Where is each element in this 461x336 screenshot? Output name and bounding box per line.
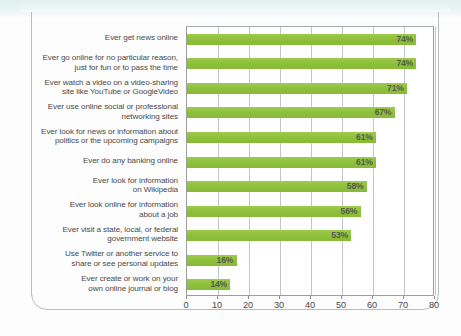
category-label-line2: politics or the upcoming campaigns — [6, 136, 178, 146]
x-tick-label-0: 0 — [183, 300, 188, 310]
bar-value-label: 16% — [217, 255, 234, 266]
category-label-line1: Use Twitter or another service to — [65, 249, 178, 258]
bar — [187, 83, 407, 94]
bar-value-label: 67% — [375, 107, 392, 118]
bar-value-label: 74% — [396, 34, 413, 45]
bar — [187, 230, 351, 241]
horizontal-bar-chart: Ever get news onlineEver go online for n… — [0, 0, 461, 336]
category-label: Ever look for informationon Wikipedia — [6, 176, 178, 195]
category-label-line1: Ever watch a video on a video-sharing — [44, 78, 178, 87]
x-tick-mark-20 — [248, 296, 249, 299]
bar-value-label: 53% — [331, 230, 348, 241]
x-tick-label-60: 60 — [367, 300, 377, 310]
x-tick-mark-60 — [372, 296, 373, 299]
category-label: Ever create or work on yourown online jo… — [6, 274, 178, 293]
x-tick-label-10: 10 — [212, 300, 222, 310]
x-tick-mark-70 — [403, 296, 404, 299]
x-tick-label-50: 50 — [336, 300, 346, 310]
category-labels-axis: Ever get news onlineEver go online for n… — [8, 26, 182, 296]
gridline-80 — [435, 27, 436, 295]
category-label: Ever look online for informationabout a … — [6, 200, 178, 219]
category-label-line1: Ever use online social or professional — [48, 102, 178, 111]
category-label-line1: Ever create or work on your — [81, 274, 178, 283]
x-tick-mark-10 — [217, 296, 218, 299]
plot-area: 74%74%71%67%61%61%58%56%53%16%14% — [186, 26, 434, 296]
category-label: Ever go online for no particular reason,… — [6, 53, 178, 72]
x-tick-label-20: 20 — [243, 300, 253, 310]
category-label-line2: site like YouTube or GoogleVideo — [6, 87, 178, 97]
category-label-line1: Ever go online for no particular reason, — [43, 53, 178, 62]
bar-value-label: 61% — [356, 157, 373, 168]
category-label: Ever watch a video on a video-sharingsit… — [6, 78, 178, 97]
bar-value-label: 14% — [210, 279, 227, 290]
category-label-line2: government website — [6, 234, 178, 244]
category-label: Ever visit a state, local, or federalgov… — [6, 225, 178, 244]
category-label: Ever look for news or information aboutp… — [6, 127, 178, 146]
bar — [187, 157, 376, 168]
bar — [187, 58, 416, 69]
bar — [187, 107, 395, 118]
category-label-line1: Ever get news online — [105, 33, 178, 42]
x-tick-mark-40 — [310, 296, 311, 299]
bar — [187, 181, 367, 192]
bar-value-label: 56% — [341, 206, 358, 217]
category-label-line1: Ever do any banking online — [83, 156, 178, 165]
x-axis: 01020304050607080 — [186, 296, 434, 316]
x-tick-label-40: 40 — [305, 300, 315, 310]
category-label: Ever get news online — [6, 33, 178, 43]
category-label-line1: Ever look for news or information about — [41, 127, 178, 136]
category-label-line2: networking sites — [6, 112, 178, 122]
category-label-line2: just for fun or to pass the time — [6, 63, 178, 73]
bar — [187, 34, 416, 45]
category-label-line2: on Wikipedia — [6, 185, 178, 195]
x-tick-mark-50 — [341, 296, 342, 299]
bar — [187, 206, 361, 217]
category-label-line2: share or see personal updates — [6, 259, 178, 269]
category-label: Ever use online social or professionalne… — [6, 102, 178, 121]
x-tick-label-30: 30 — [274, 300, 284, 310]
category-label-line2: own online journal or blog — [6, 284, 178, 294]
x-tick-mark-80 — [434, 296, 435, 299]
bar-value-label: 74% — [396, 58, 413, 69]
x-tick-mark-30 — [279, 296, 280, 299]
category-label-line1: Ever visit a state, local, or federal — [62, 225, 178, 234]
x-tick-label-80: 80 — [429, 300, 439, 310]
x-tick-label-70: 70 — [398, 300, 408, 310]
category-label-line1: Ever look for information — [93, 176, 178, 185]
bar — [187, 132, 376, 143]
bar-value-label: 71% — [387, 83, 404, 94]
category-label-line2: about a job — [6, 210, 178, 220]
category-label: Use Twitter or another service toshare o… — [6, 249, 178, 268]
category-label: Ever do any banking online — [6, 156, 178, 166]
bar-value-label: 58% — [347, 181, 364, 192]
category-label-line1: Ever look online for information — [70, 200, 178, 209]
bar-value-label: 61% — [356, 132, 373, 143]
x-tick-mark-0 — [186, 296, 187, 299]
